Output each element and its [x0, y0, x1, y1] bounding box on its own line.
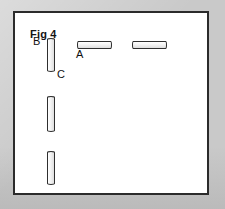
label-a: A [76, 49, 83, 60]
horizontal-capsule-right [132, 41, 167, 49]
label-b: B [33, 36, 40, 47]
figure-panel: Fig 4 B C A [13, 11, 209, 195]
label-c: C [57, 69, 65, 80]
vertical-capsule-middle [47, 96, 55, 132]
vertical-capsule-top [47, 38, 55, 72]
vertical-capsule-bottom [47, 151, 55, 185]
figure-image: Fig 4 B C A [0, 0, 225, 209]
